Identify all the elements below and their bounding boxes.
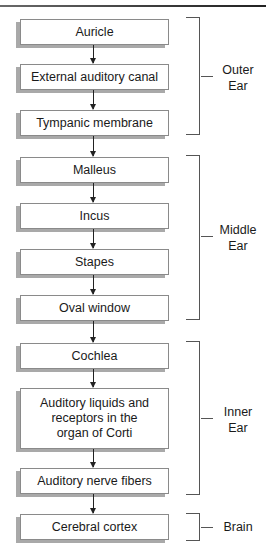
arrow-down-icon: [93, 183, 94, 202]
step-label-line: Auditory liquids and: [40, 396, 149, 411]
step-label: Auricle: [75, 25, 113, 40]
group-label-line: Ear: [214, 78, 262, 94]
bracket-tick: [201, 418, 213, 419]
bracket-outer-ear: [186, 17, 200, 135]
group-label-line: Inner: [214, 404, 262, 420]
step-malleus: Malleus: [20, 157, 169, 183]
bracket-inner-ear: [186, 341, 200, 495]
step-oval-window: Oval window: [20, 295, 169, 321]
step-auditory-nerve-fibers: Auditory nerve fibers: [20, 468, 169, 494]
group-label-outer-ear: Outer Ear: [214, 62, 262, 94]
step-label: Cerebral cortex: [52, 520, 137, 535]
step-label: Malleus: [73, 163, 116, 178]
step-label: External auditory canal: [31, 70, 158, 85]
arrow-down-icon: [93, 369, 94, 387]
group-label-brain: Brain: [214, 519, 262, 535]
step-label: Tympanic membrane: [36, 116, 153, 131]
group-label-line: Outer: [214, 62, 262, 78]
group-label-line: Middle: [214, 222, 262, 238]
bracket-middle-ear: [186, 155, 200, 320]
step-organ-of-corti: Auditory liquids and receptors in the or…: [20, 388, 169, 449]
step-cochlea: Cochlea: [20, 343, 169, 369]
arrow-down-icon: [93, 449, 94, 467]
bracket-brain: [186, 513, 200, 541]
step-label-line: organ of Corti: [57, 426, 133, 441]
step-external-auditory-canal: External auditory canal: [20, 64, 169, 90]
group-label-inner-ear: Inner Ear: [214, 404, 262, 436]
arrow-down-icon: [93, 90, 94, 109]
group-label-line: Ear: [214, 420, 262, 436]
step-label: Stapes: [75, 255, 114, 270]
step-label: Auditory nerve fibers: [37, 474, 152, 489]
arrow-down-icon: [93, 321, 94, 342]
step-tympanic-membrane: Tympanic membrane: [20, 110, 169, 136]
arrow-down-icon: [93, 229, 94, 248]
step-label: Incus: [80, 209, 110, 224]
step-incus: Incus: [20, 203, 169, 229]
group-label-middle-ear: Middle Ear: [214, 222, 262, 254]
step-label-line: receptors in the: [51, 411, 137, 426]
step-label: Cochlea: [72, 349, 118, 364]
bracket-tick: [201, 236, 213, 237]
arrow-down-icon: [93, 275, 94, 294]
group-label-line: Ear: [214, 238, 262, 254]
top-rule: [0, 5, 266, 7]
step-label: Oval window: [59, 301, 130, 316]
bracket-tick: [201, 76, 213, 77]
group-label-line: Brain: [214, 519, 262, 535]
arrow-down-icon: [93, 494, 94, 513]
arrow-down-icon: [93, 136, 94, 156]
bracket-tick: [201, 527, 213, 528]
step-auricle: Auricle: [20, 19, 169, 45]
step-stapes: Stapes: [20, 249, 169, 275]
arrow-down-icon: [93, 45, 94, 63]
step-cerebral-cortex: Cerebral cortex: [20, 514, 169, 540]
